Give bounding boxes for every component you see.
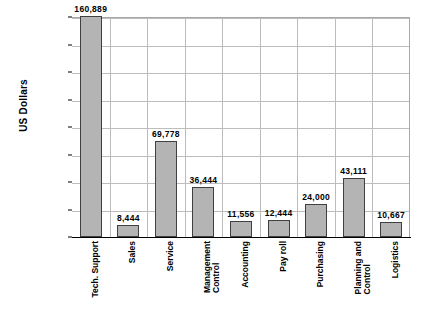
bar-value-label: 8,444 xyxy=(117,213,140,223)
bar-slot: 69,778 xyxy=(147,18,185,237)
bar-slot: 24,000 xyxy=(297,18,335,237)
bar[interactable] xyxy=(80,16,102,237)
bar-value-label: 69,778 xyxy=(152,129,180,139)
x-axis-category: Tech. Support xyxy=(72,241,110,315)
bar[interactable] xyxy=(380,222,402,237)
bar[interactable] xyxy=(230,221,252,237)
x-axis-category: Logistics xyxy=(372,241,410,315)
bar[interactable] xyxy=(268,220,290,237)
x-axis-category-label: Sales xyxy=(128,241,137,263)
x-axis-category-label: Accounting xyxy=(241,241,250,288)
bar[interactable] xyxy=(305,204,327,237)
bar-value-label: 160,889 xyxy=(74,4,107,14)
bar[interactable] xyxy=(192,187,214,237)
bar-slot: 36,444 xyxy=(185,18,223,237)
bar-chart: US Dollars 160,000140,000120,000100,0008… xyxy=(0,0,429,317)
x-axis-category-label: Planning andControl xyxy=(354,241,372,294)
x-axis-category: Pay roll xyxy=(260,241,298,315)
x-axis-category-label: Pay roll xyxy=(279,241,288,272)
plot-area: 160,8898,44469,77836,44411,55612,44424,0… xyxy=(72,17,410,237)
bar-slot: 8,444 xyxy=(110,18,148,237)
bar-value-label: 11,556 xyxy=(227,209,254,219)
x-axis-category-label: ManagementControl xyxy=(203,241,221,293)
bar[interactable] xyxy=(155,141,177,237)
x-axis-line xyxy=(72,237,411,238)
x-axis-category-label: Purchasing xyxy=(316,241,325,287)
bar[interactable] xyxy=(343,178,365,237)
bar-slot: 10,667 xyxy=(372,18,410,237)
bar-value-label: 10,667 xyxy=(377,210,405,220)
bar-slot: 43,111 xyxy=(335,18,373,237)
bar-value-label: 24,000 xyxy=(302,192,330,202)
x-axis-category-label: Service xyxy=(166,241,175,271)
bar-slot: 12,444 xyxy=(260,18,298,237)
bar-value-label: 43,111 xyxy=(340,166,367,176)
x-axis-category: Sales xyxy=(110,241,148,315)
x-axis-category: Service xyxy=(147,241,185,315)
x-axis-category-label: Logistics xyxy=(391,241,400,278)
bar[interactable] xyxy=(117,225,139,237)
bar-value-label: 36,444 xyxy=(190,175,218,185)
x-axis-category-label: Tech. Support xyxy=(91,241,100,298)
x-axis-category: Planning andControl xyxy=(335,241,373,315)
bar-slot: 11,556 xyxy=(222,18,260,237)
bar-slot: 160,889 xyxy=(72,18,110,237)
y-axis-title: US Dollars xyxy=(18,51,29,161)
x-axis-category: Accounting xyxy=(222,241,260,315)
x-axis-category: Purchasing xyxy=(297,241,335,315)
x-axis-category: ManagementControl xyxy=(185,241,223,315)
bar-value-label: 12,444 xyxy=(265,208,293,218)
